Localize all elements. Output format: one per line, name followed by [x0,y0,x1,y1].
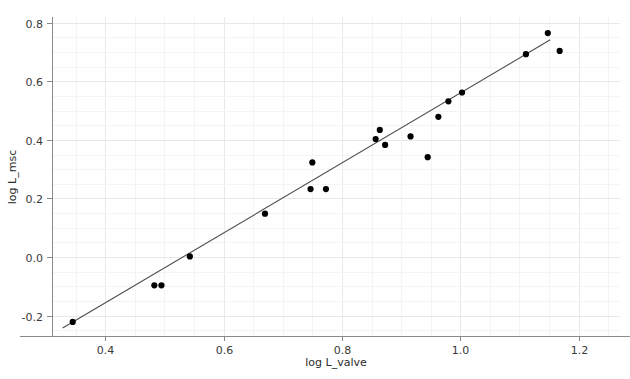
data-point [523,51,529,57]
data-point [425,154,431,160]
y-tick-label: 0.4 [26,135,44,148]
data-point [151,282,157,288]
y-axis-title: log L_msc [6,150,19,204]
chart-page: 0.40.60.81.01.2-0.20.00.20.40.60.8 log L… [0,0,630,379]
y-tick-label: 0.0 [26,252,44,265]
data-point [70,319,76,325]
data-point [262,211,268,217]
x-tick-label: 1.2 [571,344,589,357]
data-point [459,89,465,95]
y-tick-label: 0.2 [26,193,44,206]
x-tick-label: 0.6 [216,344,234,357]
x-tick-label: 0.4 [97,344,115,357]
data-point [323,186,329,192]
data-point [382,142,388,148]
data-point [373,136,379,142]
y-tick-label: 0.8 [26,18,44,31]
data-point [158,282,164,288]
data-point [557,48,563,54]
scatter-plot: 0.40.60.81.01.2-0.20.00.20.40.60.8 log L… [0,0,630,379]
data-point [445,98,451,104]
data-point [187,253,193,259]
data-point [545,30,551,36]
y-tick-label: 0.6 [26,76,44,89]
data-point [435,114,441,120]
data-point [377,127,383,133]
x-axis-title: log L_valve [305,356,367,369]
data-point [407,133,413,139]
x-tick-label: 1.0 [452,344,470,357]
data-point [309,159,315,165]
y-tick-label: -0.2 [22,311,43,324]
data-point [307,186,313,192]
plot-background [0,0,630,379]
